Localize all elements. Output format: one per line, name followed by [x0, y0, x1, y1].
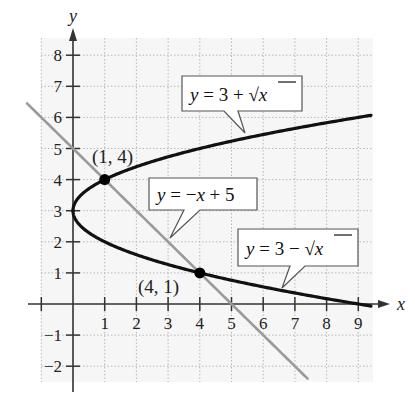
y-tick-label: 4: [54, 171, 63, 190]
y-tick-label: −1: [44, 326, 62, 345]
intersection-point: [99, 174, 110, 185]
y-axis-label: y: [67, 6, 77, 26]
x-tick-label: 4: [196, 314, 205, 333]
x-tick-label: 9: [354, 314, 363, 333]
y-tick-label: 7: [54, 77, 63, 96]
y-tick-label: 1: [54, 264, 63, 283]
x-tick-label: 5: [227, 314, 236, 333]
y-tick-label: 6: [54, 108, 63, 127]
x-axis-arrow-icon: [378, 300, 390, 308]
y-tick-label: −2: [44, 357, 62, 376]
y-tick-label: 3: [54, 202, 63, 221]
x-tick-label: 3: [164, 314, 173, 333]
x-tick-label: 7: [291, 314, 300, 333]
equation-label: y = 3 − √x: [244, 238, 324, 259]
x-tick-label: 1: [100, 314, 109, 333]
intersection-point: [194, 267, 205, 278]
y-axis-arrow-icon: [69, 28, 77, 41]
y-tick-label: 2: [54, 233, 63, 252]
chart: xy 12345678987654321−1−2 (1, 4)(4, 1) y …: [0, 0, 415, 403]
equation-label: y = −x + 5: [155, 184, 235, 205]
point-label: (1, 4): [92, 146, 133, 168]
x-tick-label: 8: [322, 314, 331, 333]
y-tick-label: 8: [54, 46, 63, 65]
x-tick-label: 6: [259, 314, 268, 333]
x-axis-label: x: [396, 294, 405, 314]
x-tick-label: 2: [132, 314, 141, 333]
point-label: (4, 1): [138, 276, 179, 298]
y-tick-label: 5: [54, 140, 63, 159]
equation-label: y = 3 + √x: [188, 84, 268, 105]
